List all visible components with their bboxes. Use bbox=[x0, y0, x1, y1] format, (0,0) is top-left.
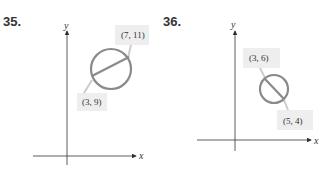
x-axis-label: x bbox=[138, 150, 144, 161]
y-axis-label: y bbox=[63, 20, 69, 31]
point-label-7-11: (7, 11) bbox=[121, 30, 145, 40]
diameter bbox=[92, 57, 129, 76]
graph-35: y x (7, 11) (3, 9) bbox=[33, 20, 149, 165]
diagrams: y x (7, 11) (3, 9) y x (3, 6) (5, 4) bbox=[0, 0, 331, 175]
y-axis-label: y bbox=[230, 19, 236, 30]
diameter bbox=[265, 79, 284, 99]
point-label-3-6: (3, 6) bbox=[249, 53, 269, 63]
graph-36: y x (3, 6) (5, 4) bbox=[197, 19, 319, 151]
point-label-5-4: (5, 4) bbox=[283, 116, 303, 126]
x-axis-label: x bbox=[313, 135, 319, 146]
circle bbox=[91, 49, 131, 89]
point-label-3-9: (3, 9) bbox=[82, 97, 102, 107]
